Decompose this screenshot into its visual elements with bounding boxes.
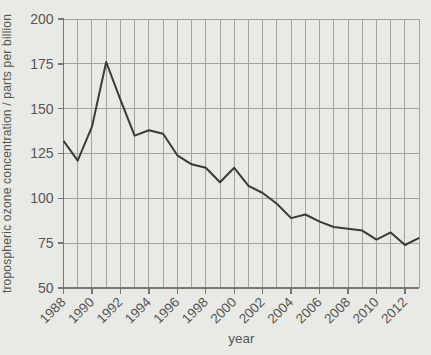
y-axis-label: tropospheric ozone concentration / parts…	[0, 14, 14, 293]
x-axis-label: year	[228, 331, 255, 346]
y-tick-label-200: 200	[30, 11, 54, 27]
x-tick-label-1998: 1998	[179, 295, 211, 327]
x-tick-label-1992: 1992	[94, 295, 126, 327]
x-tick-label-1996: 1996	[151, 295, 183, 327]
y-tick-label-100: 100	[30, 190, 54, 206]
x-tick-label-1994: 1994	[122, 294, 154, 326]
x-tick-label-2006: 2006	[293, 295, 325, 327]
x-tick-label-2012: 2012	[378, 295, 410, 327]
x-tick-label-2002: 2002	[236, 295, 268, 327]
x-tick-label-1988: 1988	[37, 295, 69, 327]
y-tick-label-150: 150	[30, 101, 54, 117]
y-tick-label-50: 50	[38, 280, 54, 296]
chart-svg: 5075100125150175200 19881990199219941996…	[0, 0, 431, 355]
gridlines	[64, 19, 420, 288]
y-tick-label-125: 125	[30, 145, 54, 161]
y-tick-labels: 5075100125150175200	[30, 11, 54, 296]
x-tick-label-2008: 2008	[321, 295, 353, 327]
x-tick-label-2004: 2004	[264, 294, 296, 326]
x-tick-label-1990: 1990	[65, 295, 97, 327]
x-tick-label-2000: 2000	[208, 295, 240, 327]
y-tick-label-75: 75	[38, 235, 54, 251]
x-tick-labels: 1988199019921994199619982000200220042006…	[37, 294, 410, 326]
tropospheric-ozone-chart: 5075100125150175200 19881990199219941996…	[0, 0, 431, 355]
tick-marks	[58, 19, 405, 294]
x-tick-label-2010: 2010	[350, 295, 382, 327]
y-tick-label-175: 175	[30, 56, 54, 72]
